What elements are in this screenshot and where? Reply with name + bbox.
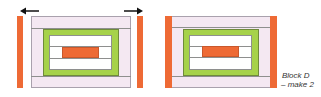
pink-seam-bottom-2 (171, 76, 271, 77)
pink-seam-bottom (31, 76, 131, 77)
pink-seam-top-2 (171, 27, 271, 28)
left-orange-strip (17, 16, 23, 88)
right-orange-strip (137, 16, 143, 88)
white-seam-bottom (49, 58, 112, 59)
block-caption-quantity: – make 2 (281, 80, 314, 89)
center-orange-rectangle (62, 47, 99, 58)
arrow-left-icon (20, 7, 40, 15)
center-orange-rectangle-2 (202, 46, 239, 57)
left-orange-strip-2 (165, 16, 172, 88)
arrow-right-icon (123, 7, 143, 15)
white-seam-bottom-2 (189, 57, 252, 58)
right-orange-strip-2 (270, 16, 277, 88)
block-caption-title: Block D (282, 71, 310, 80)
